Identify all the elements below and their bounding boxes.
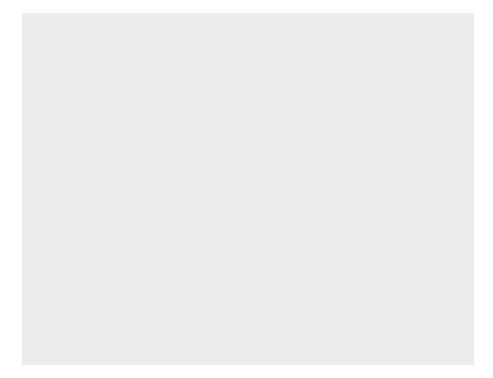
- plot-wrapper: [22, 13, 474, 365]
- figure-panel: [22, 13, 474, 365]
- chart-svg: [22, 13, 474, 365]
